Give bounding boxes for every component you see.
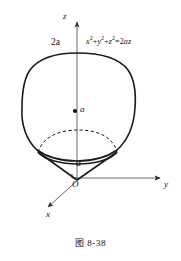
figure-caption: 图 8-38 [0, 236, 181, 249]
cone-left-edge [38, 152, 77, 180]
cone-right-edge [77, 152, 117, 180]
sphere-center-value-label: a [80, 105, 85, 114]
eq-equals: =2 [115, 37, 124, 46]
sphere-outline [22, 53, 135, 161]
origin-label: O [72, 180, 79, 189]
x-axis-label: x [46, 210, 50, 219]
sphere-top-value-label: 2a [51, 38, 60, 48]
y-axis-label: y [164, 180, 168, 189]
z-axis-label: z [63, 12, 67, 21]
figure-container: z y x O 2a a α x2+y2+z2=2az 图 8-38 [0, 0, 181, 261]
cone-angle-label: α [76, 159, 81, 169]
eq-az: az [124, 37, 131, 46]
sphere-center-dot [73, 109, 77, 113]
sphere-equation-label: x2+y2+z2=2az [86, 38, 131, 46]
